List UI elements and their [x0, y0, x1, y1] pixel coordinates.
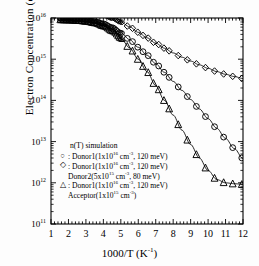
- y-tick-label: 1014: [8, 94, 46, 105]
- x-axis-label-text: 1000/T (K: [102, 247, 148, 259]
- x-tick-label: 12: [232, 228, 254, 239]
- legend-entry-text: Acceptor(1x1015 cm-3): [68, 188, 136, 200]
- y-tick-label: 1015: [8, 53, 46, 64]
- y-tick-label: 1013: [8, 136, 46, 147]
- legend-entries: ○: Donor1(1x1016 cm-3, 120 meV)◇: Donor1…: [57, 151, 168, 199]
- diamond-marker-icon: ◇: [57, 160, 68, 170]
- circle-marker-icon: ○: [57, 151, 68, 161]
- chart-figure: Electron Concentration (cm-3) 1000/T (K-…: [0, 0, 259, 266]
- legend-row: Acceptor(1x1015 cm-3): [57, 189, 168, 199]
- x-axis-label: 1000/T (K-1): [0, 246, 259, 259]
- chart-legend: n(T) simulation ○: Donor1(1x1016 cm-3, 1…: [57, 141, 168, 199]
- y-tick-label: 1016: [8, 12, 46, 23]
- x-axis-label-tail: ): [154, 247, 158, 259]
- triangle-marker-icon: △: [57, 180, 68, 190]
- y-tick-label: 1012: [8, 177, 46, 188]
